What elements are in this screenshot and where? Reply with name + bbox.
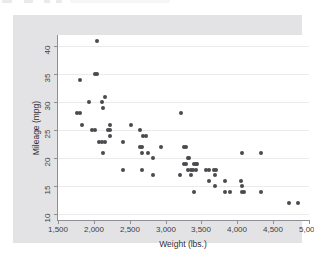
scatter-point <box>103 95 107 99</box>
scatter-point <box>240 184 244 188</box>
scatter-point <box>214 168 218 172</box>
scatter-point <box>140 168 144 172</box>
scatter-point <box>144 134 148 138</box>
graph-region: Mileage (mpg) Weight (lbs.) 101520253035… <box>13 15 302 243</box>
x-axis-tick-label: 2,500 <box>120 226 140 234</box>
x-axis-tick-label: 2,000 <box>84 226 104 234</box>
y-axis-tick-label-text: 30 <box>44 102 52 111</box>
scatter-point <box>242 190 246 194</box>
scatter-point <box>87 100 91 104</box>
scatter-point <box>287 201 291 205</box>
y-axis-tick-label: 35 <box>48 78 56 87</box>
screenshot-root: Mileage (mpg) Weight (lbs.) 101520253035… <box>0 0 314 257</box>
scatter-point <box>195 162 199 166</box>
scatter-point <box>108 128 112 132</box>
x-axis-tick <box>237 220 238 224</box>
scatter-point <box>129 123 133 127</box>
y-axis-title: Mileage (mpg) <box>31 35 42 221</box>
scatter-point <box>189 173 193 177</box>
scatter-point <box>108 134 112 138</box>
x-axis-tick <box>273 220 274 224</box>
x-axis-tick-label: 4,500 <box>263 226 283 234</box>
scatter-point <box>159 145 163 149</box>
y-axis-tick-label-text: 35 <box>44 74 52 83</box>
x-axis-tick-label: 5,000 <box>299 226 314 234</box>
x-axis-tick <box>94 220 95 224</box>
scatter-points <box>58 35 309 220</box>
x-axis-tick <box>166 220 167 224</box>
y-axis-tick-label-text: 20 <box>44 158 52 167</box>
x-axis-tick <box>309 220 310 224</box>
scatter-point <box>194 168 198 172</box>
scatter-point <box>259 190 263 194</box>
scatter-point <box>95 39 99 43</box>
scatter-point <box>179 111 183 115</box>
x-axis-tick-label: 3,500 <box>191 226 211 234</box>
scatter-point <box>228 190 232 194</box>
scatter-point <box>78 78 82 82</box>
toolbar-smudge <box>70 0 170 3</box>
y-axis-tick-label-text: 25 <box>44 130 52 139</box>
x-axis-tick-label: 1,500 <box>48 226 68 234</box>
scatter-point <box>101 106 105 110</box>
scatter-point <box>223 190 227 194</box>
y-axis-tick-label-text: 40 <box>44 46 52 55</box>
scatter-point <box>240 151 244 155</box>
scatter-point <box>95 72 99 76</box>
toolbar-smudge <box>56 0 62 3</box>
scatter-point <box>93 128 97 132</box>
toolbar-smudge <box>44 0 50 3</box>
y-axis-tick-label: 25 <box>48 134 56 143</box>
scatter-point <box>138 128 142 132</box>
y-axis-tick-label: 20 <box>48 162 56 171</box>
scatter-point <box>178 173 182 177</box>
x-axis-tick <box>130 220 131 224</box>
toolbar-smudge <box>24 0 33 3</box>
x-axis-tick-label: 4,000 <box>227 226 247 234</box>
scatter-point <box>140 151 144 155</box>
scatter-point <box>140 145 144 149</box>
scatter-point <box>187 156 191 160</box>
scatter-point <box>207 179 211 183</box>
scatter-point <box>146 151 150 155</box>
x-axis-title: Weight (lbs.) <box>57 239 309 250</box>
scatter-point <box>108 123 112 127</box>
scatter-point <box>100 100 104 104</box>
x-axis-tick <box>201 220 202 224</box>
scatter-point <box>184 145 188 149</box>
scatter-point <box>121 168 125 172</box>
scatter-point <box>121 140 125 144</box>
top-toolbar-remnant <box>0 0 314 9</box>
scatter-point <box>213 184 217 188</box>
y-axis-tick-label-text: 15 <box>44 186 52 195</box>
x-axis-tick-label: 3,000 <box>156 226 176 234</box>
y-axis-tick-label-text: 10 <box>44 214 52 223</box>
scatter-point <box>259 151 263 155</box>
scatter-point <box>207 168 211 172</box>
scatter-point <box>296 201 300 205</box>
scatter-point <box>78 111 82 115</box>
scatter-point <box>151 156 155 160</box>
x-axis-tick <box>58 220 59 224</box>
toolbar-smudge <box>2 0 12 3</box>
plot-region: 10152025303540 1,5002,0002,5003,0003,500… <box>57 35 309 221</box>
scatter-point <box>80 123 84 127</box>
y-axis-tick-label: 15 <box>48 190 56 199</box>
scatter-point <box>103 140 107 144</box>
y-axis-tick-label: 40 <box>48 50 56 59</box>
scatter-point <box>151 173 155 177</box>
scatter-point <box>184 162 188 166</box>
scatter-point <box>223 179 227 183</box>
y-axis-tick-label: 30 <box>48 106 56 115</box>
scatter-point <box>192 190 196 194</box>
scatter-point <box>213 173 217 177</box>
scatter-point <box>101 151 105 155</box>
scatter-point <box>239 179 243 183</box>
